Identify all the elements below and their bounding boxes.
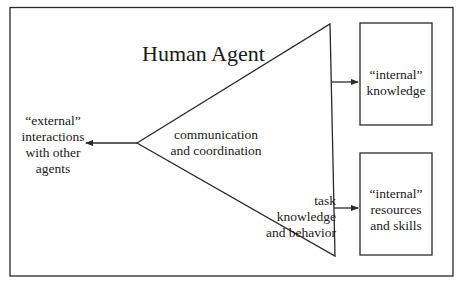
external-interactions-label: “external” interactions with other agent…	[16, 113, 90, 177]
communication-label: communication and coordination	[160, 127, 272, 159]
internal-knowledge-label: “internal” knowledge	[360, 67, 432, 99]
task-knowledge-label: task knowledge and behavior	[252, 193, 336, 241]
diagram-title: Human Agent	[142, 42, 265, 66]
human-agent-diagram: Human Agent “external” interactions with…	[0, 0, 460, 287]
internal-resources-label: “internal” resources and skills	[360, 186, 432, 234]
